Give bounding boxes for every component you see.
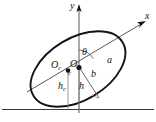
height-h-label: h <box>79 81 84 91</box>
height-hc-label: hc <box>58 81 66 91</box>
figure-canvas <box>0 0 156 122</box>
semi-minor-axis-label: b <box>91 69 96 79</box>
point-Oc-subscript: c <box>58 64 61 71</box>
y-axis-label: y <box>70 1 74 11</box>
semi-major-axis-label: a <box>107 55 112 65</box>
point-O-label: O <box>70 59 77 69</box>
theta-angle-label: θ <box>82 47 87 57</box>
point-Oc-label: Oc <box>51 60 61 70</box>
centroid-c-label: c <box>68 70 71 77</box>
height-hc-subscript: c <box>63 85 66 92</box>
ellipse-geometry-figure: y x θ a b h hc O Oc c <box>0 0 156 122</box>
x-axis-arrow-icon <box>137 21 146 28</box>
x-axis-label: x <box>145 11 149 21</box>
